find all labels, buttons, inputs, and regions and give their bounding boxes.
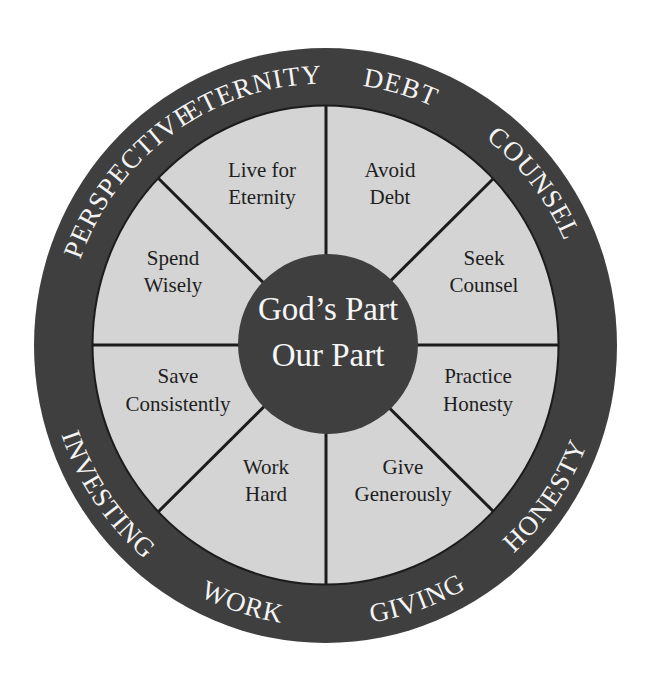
sector-label-line2: Debt — [370, 185, 411, 209]
sector-label-line1: Practice — [444, 364, 512, 388]
sector-label-line1: Save — [158, 364, 199, 388]
sector-label-line1: Seek — [464, 246, 505, 270]
sector-label-line2: Counsel — [450, 273, 519, 297]
sector-label-line1: Give — [383, 455, 424, 479]
sector-label-line2: Hard — [245, 482, 287, 506]
hub-line-2: Our Part — [272, 337, 385, 373]
sector-label-line2: Honesty — [443, 392, 513, 416]
sector-label-line2: Generously — [355, 482, 452, 506]
sector-label-line1: Live for — [228, 158, 296, 182]
wheel-diagram: God’s Part Our Part Live for Eternity Av… — [0, 0, 659, 694]
sector-label-line2: Wisely — [144, 273, 203, 297]
sector-label-line1: Spend — [147, 246, 200, 270]
sector-label-line1: Work — [243, 455, 290, 479]
sector-label-line2: Consistently — [125, 392, 231, 416]
sector-label-line2: Eternity — [228, 185, 296, 209]
hub-line-1: God’s Part — [258, 291, 398, 327]
sector-label-line1: Avoid — [365, 158, 416, 182]
